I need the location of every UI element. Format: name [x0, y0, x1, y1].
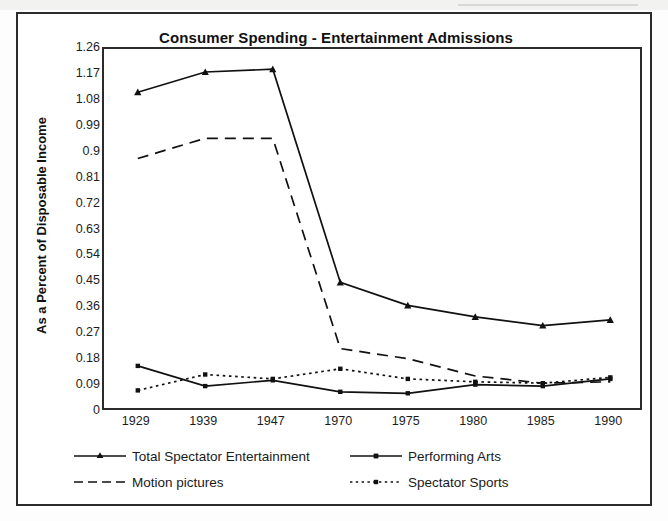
- series-marker: [203, 384, 207, 388]
- y-axis-tick-labels: 1.261.171.080.990.90.810.720.630.540.450…: [44, 47, 100, 410]
- chart-legend: Total Spectator Entertainment Performing…: [62, 446, 622, 500]
- legend-label: Total Spectator Entertainment: [128, 449, 310, 464]
- series-marker: [406, 377, 410, 381]
- legend-key-dotted-square-icon: [348, 475, 404, 489]
- series-marker: [406, 391, 410, 395]
- legend-item-motion-pictures: Motion pictures: [72, 472, 224, 492]
- x-axis-tick-label: 1980: [459, 414, 487, 428]
- y-axis-tick-label: 0.81: [52, 170, 100, 184]
- y-axis-tick-label: 0.18: [52, 351, 100, 365]
- series-marker: [271, 377, 275, 381]
- y-axis-tick-label: 1.08: [52, 92, 100, 106]
- chart-title: Consumer Spending - Entertainment Admiss…: [18, 29, 654, 46]
- legend-key-solid-square-icon: [348, 449, 404, 463]
- y-axis-tick-label: 0.09: [52, 377, 100, 391]
- legend-item-spectator-sports: Spectator Sports: [348, 472, 509, 492]
- chart-page: Consumer Spending - Entertainment Admiss…: [0, 0, 668, 521]
- x-axis-tick-label: 1985: [527, 414, 555, 428]
- x-axis-tick-label: 1947: [257, 414, 285, 428]
- y-axis-tick-label: 0.36: [52, 299, 100, 313]
- series-marker: [136, 364, 140, 368]
- y-axis-tick-label: 0.45: [52, 273, 100, 287]
- y-axis-tick-label: 0.9: [52, 144, 100, 158]
- x-axis-tick-label: 1975: [392, 414, 420, 428]
- legend-key-dashed-line-icon: [72, 475, 128, 489]
- legend-label: Motion pictures: [128, 475, 224, 490]
- y-axis-tick-label: 0: [52, 403, 100, 417]
- y-axis-tick-label: 0.54: [52, 247, 100, 261]
- x-axis-tick-labels: 19291939194719701975198019851990: [102, 414, 642, 436]
- x-axis-tick-label: 1970: [324, 414, 352, 428]
- series-marker: [608, 375, 612, 379]
- x-axis-tick-label: 1939: [189, 414, 217, 428]
- series-marker: [136, 388, 140, 392]
- plot-lines: [104, 49, 644, 412]
- y-axis-tick-label: 0.63: [52, 222, 100, 236]
- figure-frame: Consumer Spending - Entertainment Admiss…: [16, 12, 652, 506]
- legend-item-total-spectator-entertainment: Total Spectator Entertainment: [72, 446, 310, 466]
- scan-artifact-strip: [0, 0, 668, 10]
- legend-label: Performing Arts: [404, 449, 501, 464]
- x-axis-tick-label: 1990: [594, 414, 622, 428]
- series-marker: [338, 390, 342, 394]
- legend-key-solid-triangle-icon: [72, 449, 128, 463]
- legend-item-performing-arts: Performing Arts: [348, 446, 501, 466]
- series-line: [138, 369, 611, 391]
- plot-area: [102, 47, 642, 410]
- series-line: [138, 366, 611, 393]
- y-axis-tick-label: 0.27: [52, 325, 100, 339]
- y-axis-tick-label: 1.17: [52, 66, 100, 80]
- series-marker: [338, 367, 342, 371]
- legend-label: Spectator Sports: [404, 475, 509, 490]
- x-axis-tick-label: 1929: [122, 414, 150, 428]
- series-marker: [337, 279, 344, 286]
- y-axis-tick-label: 0.99: [52, 118, 100, 132]
- y-axis-tick-label: 1.26: [52, 40, 100, 54]
- series-line: [138, 69, 611, 325]
- series-marker: [473, 380, 477, 384]
- series-line: [138, 138, 611, 383]
- series-marker: [203, 372, 207, 376]
- y-axis-tick-label: 0.72: [52, 196, 100, 210]
- series-marker: [541, 381, 545, 385]
